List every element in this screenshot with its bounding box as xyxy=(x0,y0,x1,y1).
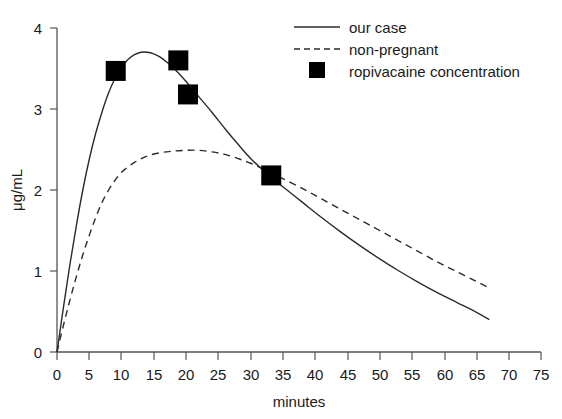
x-tick-label-15: 75 xyxy=(533,366,550,383)
x-tick-label-9: 45 xyxy=(340,366,357,383)
series-our-case xyxy=(57,52,489,352)
x-tick-label-5: 25 xyxy=(210,366,227,383)
x-tick-label-6: 30 xyxy=(243,366,260,383)
data-point-marker xyxy=(106,61,126,81)
x-tick-label-4: 20 xyxy=(178,366,195,383)
series-ropivacaine-markers xyxy=(106,50,282,185)
series-group xyxy=(57,50,489,352)
y-tick-label-2: 2 xyxy=(34,182,42,199)
x-tick-label-11: 55 xyxy=(404,366,421,383)
legend-label-non-pregnant: non-pregnant xyxy=(349,41,439,58)
y-tick-label-3: 3 xyxy=(34,101,42,118)
data-point-marker xyxy=(168,50,188,70)
x-axis-ticks: 0 5 10 15 20 25 30 35 40 45 50 55 xyxy=(53,352,550,383)
y-tick-label-4: 4 xyxy=(34,20,42,37)
x-tick-label-14: 70 xyxy=(501,366,518,383)
data-point-marker xyxy=(261,165,281,185)
legend: our case non-pregnant ropivacaine concen… xyxy=(294,19,520,80)
legend-label-ropivacaine-concentration: ropivacaine concentration xyxy=(349,63,520,80)
x-tick-label-2: 10 xyxy=(113,366,130,383)
y-axis-ticks: 0 1 2 3 4 xyxy=(34,20,57,361)
x-tick-label-0: 0 xyxy=(53,366,61,383)
chart-figure: 0 1 2 3 4 0 5 10 15 20 25 30 xyxy=(0,0,562,419)
legend-label-our-case: our case xyxy=(349,19,407,36)
y-tick-label-0: 0 xyxy=(34,344,42,361)
x-tick-label-3: 15 xyxy=(146,366,163,383)
x-tick-label-13: 65 xyxy=(469,366,486,383)
x-tick-label-7: 35 xyxy=(275,366,292,383)
x-tick-label-8: 40 xyxy=(307,366,324,383)
data-point-marker xyxy=(178,84,198,104)
y-axis-title: μg/mL xyxy=(8,169,25,211)
x-tick-label-12: 60 xyxy=(437,366,454,383)
legend-symbol-filled-square xyxy=(309,62,325,78)
x-axis-title: minutes xyxy=(273,393,326,410)
y-tick-label-1: 1 xyxy=(34,263,42,280)
x-tick-label-10: 50 xyxy=(372,366,389,383)
x-tick-label-1: 5 xyxy=(85,366,93,383)
ropivacaine-concentration-chart: 0 1 2 3 4 0 5 10 15 20 25 30 xyxy=(0,0,562,419)
